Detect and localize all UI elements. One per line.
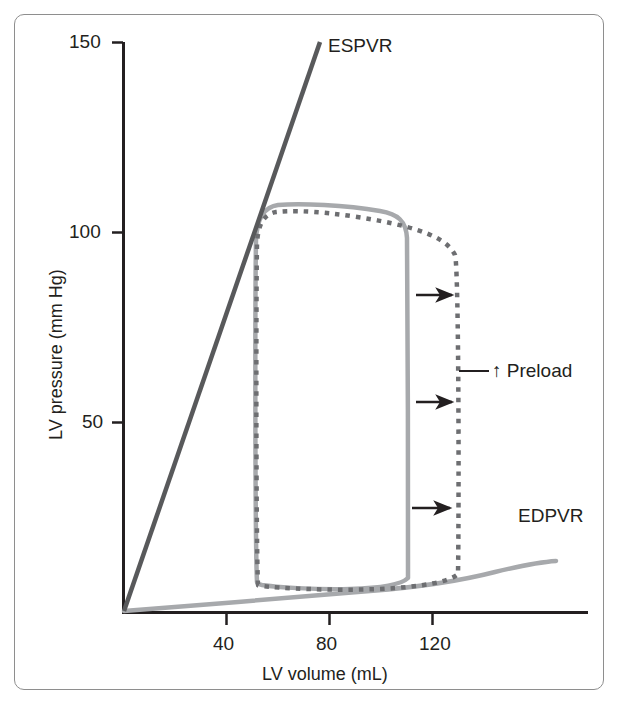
pressure-axis-ticks: [112, 43, 123, 423]
tick-label-y-100: 100: [69, 221, 101, 243]
espvr-label: ESPVR: [328, 35, 392, 57]
tick-label-y-150: 150: [69, 31, 101, 53]
preload-label: ↑ Preload: [492, 360, 572, 382]
pressure-axis-title: LV pressure (mm Hg): [46, 269, 67, 440]
volume-axis-ticks: [227, 613, 433, 625]
axis-lines: [122, 42, 588, 613]
tick-label-x-40: 40: [213, 633, 234, 655]
tick-label-y-50: 50: [82, 411, 103, 433]
preload-arrows: [412, 295, 452, 508]
pv-loop-chart: [0, 0, 623, 710]
volume-axis-title: LV volume (mL): [262, 664, 388, 685]
tick-label-x-120: 120: [419, 633, 451, 655]
edpvr-curve: [124, 561, 556, 611]
pv-loop-baseline: [255, 204, 408, 589]
espvr-line: [124, 42, 320, 611]
tick-label-x-80: 80: [316, 633, 337, 655]
edpvr-label: EDPVR: [518, 505, 583, 527]
pv-loop-increased-preload: [256, 211, 458, 590]
